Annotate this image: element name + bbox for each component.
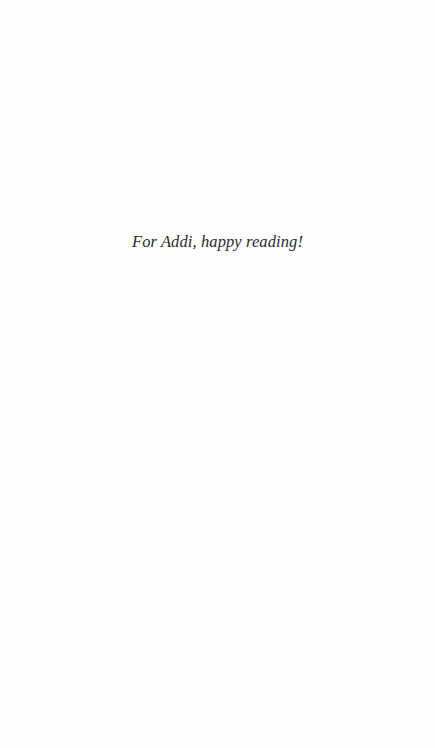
book-page: For Addi, happy reading! bbox=[0, 0, 435, 748]
dedication-text: For Addi, happy reading! bbox=[0, 232, 435, 252]
